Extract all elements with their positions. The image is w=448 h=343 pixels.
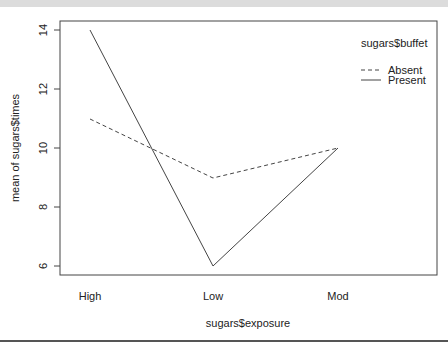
x-tick-high: High — [79, 290, 102, 302]
y-tick-10: 10 — [37, 142, 49, 154]
x-tick-low: Low — [203, 290, 223, 302]
y-axis-label: mean of sugars$times — [9, 93, 21, 202]
legend: sugars$buffet Absent Present — [361, 37, 427, 86]
y-axis-ticks — [54, 30, 60, 266]
interaction-plot: 6 8 10 12 14 mean of sugars$times High L… — [0, 0, 448, 343]
x-axis-tick-labels: High Low Mod — [79, 290, 349, 302]
x-tick-mod: Mod — [327, 290, 348, 302]
x-axis-label: sugars$exposure — [206, 317, 290, 329]
legend-present-label: Present — [388, 74, 426, 86]
series-present-line — [90, 30, 338, 266]
plot-frame — [60, 21, 437, 275]
y-tick-8: 8 — [37, 204, 49, 210]
window-bottom-border — [0, 340, 448, 342]
series-absent-line — [90, 119, 338, 178]
y-tick-12: 12 — [37, 83, 49, 95]
y-tick-6: 6 — [37, 263, 49, 269]
legend-title: sugars$buffet — [361, 37, 427, 49]
y-tick-14: 14 — [37, 24, 49, 36]
y-axis-tick-labels: 6 8 10 12 14 — [37, 24, 49, 269]
